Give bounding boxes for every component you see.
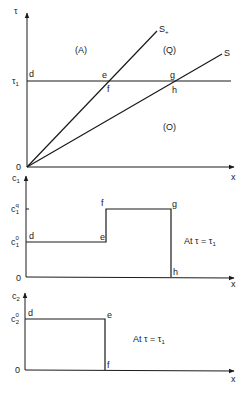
s-label: S [224, 48, 230, 58]
point-e-bottom: e [107, 310, 112, 320]
x-axis-middle [26, 277, 234, 278]
c2-profile [25, 319, 105, 370]
point-d-middle: d [29, 231, 34, 241]
point-d-top: d [29, 69, 34, 79]
point-f-bottom: f [107, 360, 110, 370]
bottom-panel: c2 c02 0 x d e f At τ = τ1 [11, 291, 236, 384]
middle-panel: c1 cq1 c01 0 x d e f g h At τ = τ1 [11, 173, 236, 289]
tau1-label: τ1 [12, 76, 20, 87]
point-h-top: h [172, 85, 177, 95]
x-axis-bottom [25, 370, 234, 371]
c1q-label: cq1 [11, 202, 20, 215]
c10-label: c01 [11, 235, 20, 248]
x-axis-label-bottom: x [231, 374, 236, 384]
wave-diagram: τ x 0 τ1 S+ S (A) (Q) (O) d e f g h c1 c… [0, 0, 249, 395]
annotation-middle: At τ = τ1 [184, 236, 216, 247]
region-o: (O) [163, 122, 176, 132]
tau-axis-label: τ [14, 6, 18, 16]
top-panel: τ x 0 τ1 S+ S (A) (Q) (O) d e f g h [12, 6, 236, 182]
annotation-bottom: At τ = τ1 [133, 334, 165, 345]
origin-label-middle: 0 [16, 273, 21, 283]
s-plus-label: S+ [159, 24, 169, 35]
x-axis-label-middle: x [231, 279, 236, 289]
point-h-middle: h [173, 267, 178, 277]
point-d-bottom: d [28, 308, 33, 318]
point-f-top: f [107, 84, 110, 94]
s-line [27, 54, 222, 167]
region-q: (Q) [163, 45, 176, 55]
c20-label: c02 [11, 312, 20, 325]
s-plus-line [27, 31, 157, 167]
point-e-top: e [102, 70, 107, 80]
c1-profile [26, 209, 171, 277]
c2-axis-label: c2 [12, 291, 21, 302]
c1-axis-label: c1 [12, 173, 21, 184]
origin-label-top: 0 [16, 162, 21, 172]
x-axis-label-top: x [231, 172, 236, 182]
point-g-top: g [170, 70, 175, 80]
point-e-middle: e [100, 232, 105, 242]
point-g-middle: g [172, 199, 177, 209]
origin-label-bottom: 0 [15, 365, 20, 375]
point-f-middle: f [101, 198, 104, 208]
region-a: (A) [75, 45, 87, 55]
